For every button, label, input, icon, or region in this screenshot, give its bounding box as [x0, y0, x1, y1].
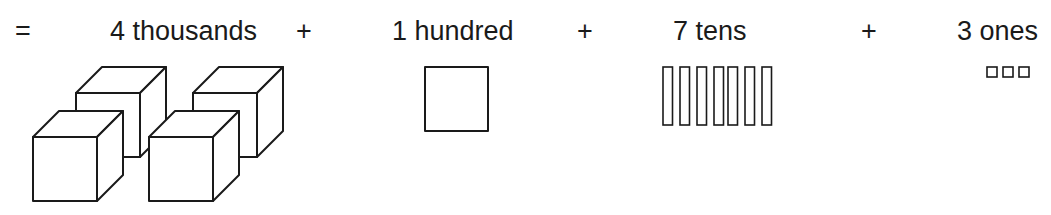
thousand-cube-icon — [33, 111, 123, 201]
thousand-cube-icon — [149, 111, 239, 201]
ten-rod-icon — [762, 67, 772, 125]
base-ten-blocks — [0, 0, 1051, 215]
ten-rod-icon — [728, 67, 738, 125]
ten-rod-icon — [663, 67, 673, 125]
ten-rod-icon — [745, 67, 755, 125]
thousand-cubes-group — [33, 67, 283, 201]
ten-rods-group — [663, 67, 772, 125]
one-units-group — [987, 67, 1029, 77]
ten-rod-icon — [714, 67, 724, 125]
hundred-flat-icon — [425, 67, 488, 131]
one-unit-icon — [1003, 67, 1013, 77]
ten-rod-icon — [680, 67, 690, 125]
one-unit-icon — [1019, 67, 1029, 77]
hundred-flats-group — [425, 67, 488, 131]
ten-rod-icon — [697, 67, 707, 125]
one-unit-icon — [987, 67, 997, 77]
